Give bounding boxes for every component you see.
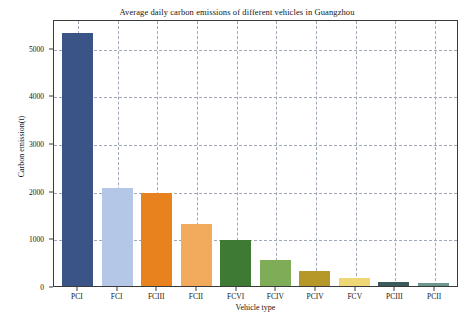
x-tick-mark [156, 287, 157, 291]
y-tick-label: 5000 [29, 44, 44, 53]
chart-figure: Average daily carbon emissions of differ… [0, 0, 474, 322]
bar-PCIII[interactable] [378, 282, 409, 286]
x-tick-mark [434, 287, 435, 291]
bar-slot [414, 21, 454, 286]
bar-PCII[interactable] [418, 283, 449, 286]
y-tick-label: 2000 [29, 187, 44, 196]
x-axis-title: Vehicle type [53, 303, 458, 312]
y-tick-label: 4000 [29, 92, 44, 101]
chart-title: Average daily carbon emissions of differ… [0, 7, 474, 17]
y-tick-label: 1000 [29, 235, 44, 244]
bar-slot [216, 21, 256, 286]
x-tick-mark [275, 287, 276, 291]
x-tick-label-FCV: FCV [347, 292, 362, 301]
bar-PCIV[interactable] [299, 271, 330, 286]
y-tick-label: 0 [40, 283, 44, 292]
bar-FCV[interactable] [339, 278, 370, 286]
x-tick-label-PCIII: PCIII [386, 292, 403, 301]
x-tick-mark [195, 287, 196, 291]
bar-PCI[interactable] [62, 33, 93, 286]
x-tick-label-PCI: PCI [71, 292, 83, 301]
x-axis-tick-group: PCIFCIFCIIIFCIIFCVIFCIVPCIVFCVPCIIIPCII [53, 287, 458, 317]
bar-FCIII[interactable] [141, 193, 172, 286]
bar-slot [256, 21, 296, 286]
bar-FCI[interactable] [102, 188, 133, 286]
bar-slot [58, 21, 98, 286]
x-tick-mark [235, 287, 236, 291]
y-axis-tick-group: 010002000300040005000 [0, 20, 53, 287]
bar-slot [137, 21, 177, 286]
x-tick-label-FCII: FCII [189, 292, 203, 301]
bar-FCII[interactable] [181, 224, 212, 286]
x-tick-label-FCVI: FCVI [227, 292, 244, 301]
x-tick-label-FCIII: FCIII [148, 292, 165, 301]
x-tick-label-PCIV: PCIV [307, 292, 324, 301]
bar-slot [335, 21, 375, 286]
bar-series [54, 21, 457, 286]
x-tick-label-PCII: PCII [427, 292, 441, 301]
y-tick-label: 3000 [29, 139, 44, 148]
bar-slot [98, 21, 138, 286]
x-tick-mark [315, 287, 316, 291]
bar-slot [177, 21, 217, 286]
plot-area [53, 20, 458, 287]
bar-slot [295, 21, 335, 286]
bar-FCVI[interactable] [220, 240, 251, 286]
bar-slot [374, 21, 414, 286]
x-tick-mark [76, 287, 77, 291]
x-tick-mark [116, 287, 117, 291]
x-tick-label-FCIV: FCIV [267, 292, 284, 301]
x-tick-label-FCI: FCI [111, 292, 123, 301]
bar-FCIV[interactable] [260, 260, 291, 286]
x-tick-mark [354, 287, 355, 291]
x-tick-mark [394, 287, 395, 291]
